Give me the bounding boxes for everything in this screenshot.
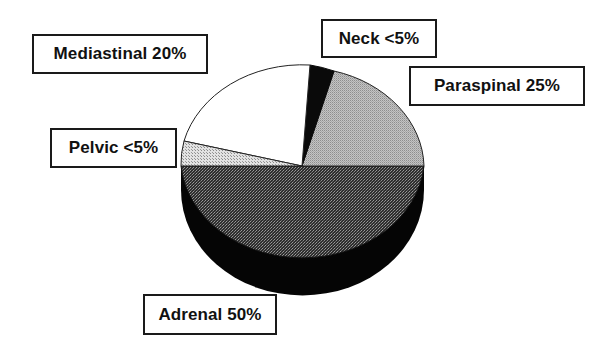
label-neck: Neck <5% — [321, 19, 437, 58]
label-mediastinal: Mediastinal 20% — [32, 34, 208, 74]
label-adrenal: Adrenal 50% — [143, 294, 277, 335]
label-pelvic: Pelvic <5% — [50, 128, 177, 168]
label-paraspinal: Paraspinal 25% — [409, 66, 585, 106]
